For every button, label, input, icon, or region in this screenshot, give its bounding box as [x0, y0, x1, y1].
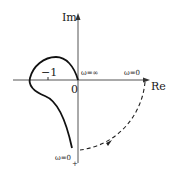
minus-one-label: −1 — [41, 66, 57, 79]
omega-zero-real-label: ω=0 — [124, 69, 140, 77]
omega-zero-plus-subscript: + — [72, 160, 78, 168]
origin-label: 0 — [71, 83, 78, 96]
omega-inf-label: ω=∞ — [81, 69, 99, 77]
real-axis-arrow-icon — [143, 78, 150, 83]
imag-axis-label: Im — [62, 11, 77, 24]
omega-zero-plus-label: ω=0 — [55, 154, 71, 162]
nyquist-diagram: Im Re 0 −1 ω=∞ ω=0 ω=0 + — [0, 0, 171, 182]
dashed-arc — [80, 82, 145, 150]
real-axis-label: Re — [151, 80, 166, 93]
